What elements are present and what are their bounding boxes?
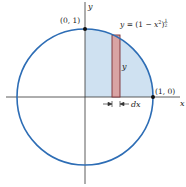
circle-diagram: y x (0, 1) (1, 0) y = (1 − x2) 1 2 y dx xyxy=(0,0,186,187)
dx-indicator xyxy=(103,101,129,107)
curve-exponent-num: 1 xyxy=(165,18,168,23)
point-0-1 xyxy=(83,27,87,31)
diagram-canvas: y x (0, 1) (1, 0) y = (1 − x2) 1 2 y dx xyxy=(0,0,186,187)
x-axis-label: x xyxy=(180,99,185,108)
y-axis-label: y xyxy=(87,2,93,11)
point-label-1-0: (1, 0) xyxy=(155,87,175,96)
point-label-0-1: (0, 1) xyxy=(60,16,80,25)
strip-width-label: dx xyxy=(131,100,141,109)
curve-equation-label: y = (1 − x2) xyxy=(119,19,164,29)
curve-exponent-den: 2 xyxy=(165,23,168,28)
integration-strip xyxy=(112,35,120,97)
strip-height-label: y xyxy=(121,62,127,71)
